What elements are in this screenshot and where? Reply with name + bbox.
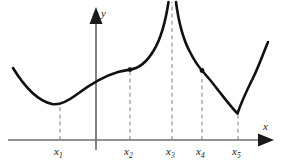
x-axis-label-text: x <box>263 120 268 132</box>
graph-canvas <box>0 0 283 168</box>
tick-label-x3-sub: 3 <box>171 151 175 160</box>
tick-label-x4: x4 <box>196 146 205 160</box>
inflection-point-marker-x4 <box>200 68 205 73</box>
tick-label-x2: x2 <box>124 146 133 160</box>
inflection-point-marker-x2 <box>128 67 133 72</box>
curve-right-branch <box>176 2 268 114</box>
function-graph-figure: y x x1 x2 x3 x4 x5 <box>0 0 283 168</box>
x-axis-arrowhead <box>258 134 274 147</box>
tick-label-x5-sub: 5 <box>237 151 241 160</box>
tick-label-x4-sub: 4 <box>201 151 205 160</box>
tick-label-x1: x1 <box>54 146 63 160</box>
x-axis-label: x <box>263 121 268 132</box>
tick-label-x3: x3 <box>166 146 175 160</box>
tick-label-x1-sub: 1 <box>59 151 63 160</box>
y-axis-label: y <box>101 8 106 19</box>
tick-label-x2-sub: 2 <box>129 151 133 160</box>
tick-label-x5: x5 <box>232 146 241 160</box>
y-axis-label-text: y <box>101 7 106 19</box>
curve-left-branch <box>13 2 169 104</box>
